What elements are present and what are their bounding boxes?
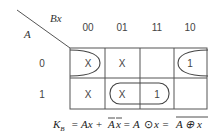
group-loop-wrap-right (178, 50, 208, 76)
cell-0-10: 1 (187, 58, 193, 69)
cell-0-01: X (119, 58, 126, 69)
col-header-11: 11 (152, 22, 163, 33)
eq-xor-expr: A ⊕ x (175, 118, 202, 130)
col-header-01: 01 (116, 22, 128, 33)
xnor-symbol: ⊙ (144, 118, 153, 130)
equation: KB = Ax + A x = A ⊙ x = A ⊕ x (52, 117, 208, 133)
cell-1-11: 1 (154, 89, 160, 100)
eq-part2: = A (123, 118, 140, 130)
eq-part1: = Ax + (71, 118, 103, 130)
eq-part3: x = (153, 118, 169, 130)
cell-1-00: X (85, 89, 92, 100)
eq-lhs-sub: B (60, 125, 65, 133)
eq-not-x: x (115, 118, 121, 130)
col-header-00: 00 (82, 22, 94, 33)
karnaugh-map-diagram: Bx A 00 01 11 10 0 1 X X 1 X X 1 KB = Ax… (0, 0, 220, 139)
col-variable-label: Bx (50, 12, 62, 24)
row-variable-label: A (23, 28, 31, 40)
cell-0-00: X (85, 58, 92, 69)
row-header-1: 1 (39, 89, 45, 100)
svg-text:KB: KB (52, 118, 65, 133)
col-header-10: 10 (184, 22, 196, 33)
eq-not-a: A (107, 118, 115, 130)
cell-1-01: X (119, 89, 126, 100)
row-header-0: 0 (39, 58, 45, 69)
